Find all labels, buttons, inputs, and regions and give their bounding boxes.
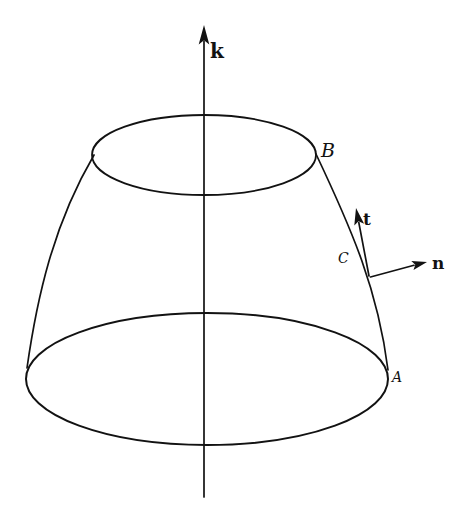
axis-k-label: k [210,39,225,63]
bottom-circle [26,313,388,445]
tangent-t-label: t [363,209,371,229]
surface-of-revolution-diagram: k B A t n C [0,0,463,518]
point-A-label: A [390,369,402,385]
curve-C-path [316,154,388,370]
point-B-label: B [320,139,335,161]
normal-vector-shaft [371,265,415,277]
curve-script-C-label: C [338,250,349,266]
normal-n-label: n [432,253,444,273]
left-silhouette-curve [27,155,94,368]
figure-page: k B A t n C [0,0,463,518]
